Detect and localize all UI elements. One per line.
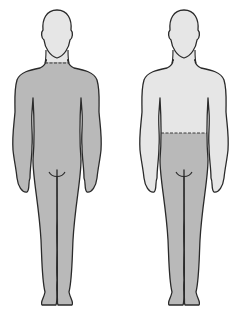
left-leg-divide	[57, 176, 58, 302]
body-diagram	[0, 0, 248, 321]
diagram-canvas: neck-down (trunk, arms, legs) waist-down…	[0, 0, 248, 321]
figure-right	[140, 10, 229, 305]
figure-left	[13, 10, 102, 305]
right-leg-divide	[184, 176, 185, 302]
